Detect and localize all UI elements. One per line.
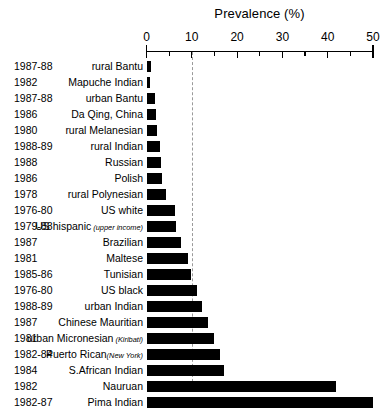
chart-row: 1986Da Qing, China <box>0 106 381 122</box>
row-year: 1987 <box>14 235 37 249</box>
bar-track <box>147 157 161 168</box>
row-population-label: urban Micronesian (Kiribati) <box>27 331 143 347</box>
bar-track <box>147 93 156 104</box>
bar <box>147 317 209 328</box>
bar-track <box>147 237 181 248</box>
row-year: 1987 <box>14 315 37 329</box>
row-population-label: rural Indian <box>90 139 143 153</box>
row-population-name: Pima Indian <box>88 396 143 408</box>
bar <box>147 221 177 232</box>
row-population-label: US white <box>101 203 143 217</box>
bar-track <box>147 189 166 200</box>
bar <box>147 253 188 264</box>
row-population-label: rural Polynesian <box>68 187 143 201</box>
row-population-name: Puerto Rican <box>46 348 107 360</box>
row-population-name: Chinese Mauritian <box>58 316 143 328</box>
row-year: 1982 <box>14 75 37 89</box>
row-year: 1987-88 <box>14 91 53 105</box>
axis-tick-label-10: 10 <box>185 30 198 44</box>
row-population-label: Maltese <box>106 251 143 265</box>
row-year: 1978 <box>14 187 37 201</box>
bar <box>147 333 215 344</box>
bar-track <box>147 397 374 408</box>
bar <box>147 61 152 72</box>
row-population-name: rural Polynesian <box>68 188 143 200</box>
row-population-label: Mapuche Indian <box>68 75 143 89</box>
bar-track <box>147 173 162 184</box>
row-population-name: urban Indian <box>85 300 143 312</box>
row-population-name: urban Micronesian <box>27 332 113 344</box>
chart-row: 1988Russian <box>0 154 381 170</box>
bar-track <box>147 365 225 376</box>
axis-tick-40 <box>327 51 328 58</box>
row-population-label: Puerto Rican(New York) <box>46 347 143 363</box>
row-population-label: rural Melanesian <box>65 123 143 137</box>
row-population-name: Maltese <box>106 252 143 264</box>
row-population-name: Brazilian <box>103 236 143 248</box>
bar <box>147 397 374 408</box>
bar <box>147 381 336 392</box>
bar-track <box>147 61 152 72</box>
axis-tick-label-40: 40 <box>321 30 334 44</box>
row-population-label: Pima Indian <box>88 395 143 409</box>
row-population-label: Da Qing, China <box>71 107 143 121</box>
bar <box>147 141 160 152</box>
axis-tick-50 <box>372 51 373 58</box>
bar <box>147 285 198 296</box>
x-axis: 01020304050 <box>0 0 381 58</box>
bar <box>147 237 181 248</box>
chart-row: 1982Nauruan <box>0 378 381 394</box>
row-year: 1988 <box>14 155 37 169</box>
bar-track <box>147 125 158 136</box>
bar <box>147 189 166 200</box>
chart-row: 1981urban Micronesian (Kiribati) <box>0 330 381 346</box>
bar <box>147 93 156 104</box>
bar-track <box>147 285 198 296</box>
bar-track <box>147 301 202 312</box>
row-population-name: US black <box>101 284 143 296</box>
row-population-note: (Kiribati) <box>113 335 143 344</box>
row-population-name: US white <box>101 204 143 216</box>
chart-row: 1987-88urban Bantu <box>0 90 381 106</box>
row-year: 1982 <box>14 379 37 393</box>
row-population-label: Polish <box>114 171 143 185</box>
row-year: 1985-86 <box>14 267 53 281</box>
row-population-label: Tunisian <box>104 267 143 281</box>
bar <box>147 109 157 120</box>
axis-tick-5 <box>169 51 170 56</box>
chart-row: 1976-80US white <box>0 202 381 218</box>
row-population-name: rural Melanesian <box>65 124 143 136</box>
row-year: 1976-80 <box>14 283 53 297</box>
row-population-name: rural Bantu <box>92 60 143 72</box>
axis-tick-15 <box>214 51 215 56</box>
bar-track <box>147 381 336 392</box>
row-population-label: Chinese Mauritian <box>58 315 143 329</box>
row-year: 1976-80 <box>14 203 53 217</box>
axis-tick-45 <box>350 51 351 56</box>
chart-row: 1987Chinese Mauritian <box>0 314 381 330</box>
chart-row: 1988-89rural Indian <box>0 138 381 154</box>
row-year: 1980 <box>14 123 37 137</box>
chart-row: 1987-88rural Bantu <box>0 58 381 74</box>
chart-rows: 1987-88rural Bantu1982Mapuche Indian1987… <box>0 58 381 410</box>
row-year: 1987-88 <box>14 59 53 73</box>
bar-track <box>147 349 220 360</box>
row-population-name: Mapuche Indian <box>68 76 143 88</box>
chart-row: 1987Brazilian <box>0 234 381 250</box>
chart-row: 1978rural Polynesian <box>0 186 381 202</box>
row-population-label: urban Bantu <box>86 91 143 105</box>
bar <box>147 125 158 136</box>
bar <box>147 301 202 312</box>
axis-tick-35 <box>304 51 305 56</box>
chart-row: 1986Polish <box>0 170 381 186</box>
row-population-name: Russian <box>105 156 143 168</box>
axis-tick-label-30: 30 <box>276 30 289 44</box>
bar <box>147 173 162 184</box>
row-year: 1986 <box>14 171 37 185</box>
row-year: 1988-89 <box>14 299 53 313</box>
row-population-name: rural Indian <box>90 140 143 152</box>
chart-row: 1982-87Pima Indian <box>0 394 381 410</box>
chart-row: 1984S.African Indian <box>0 362 381 378</box>
axis-tick-30 <box>282 51 283 58</box>
